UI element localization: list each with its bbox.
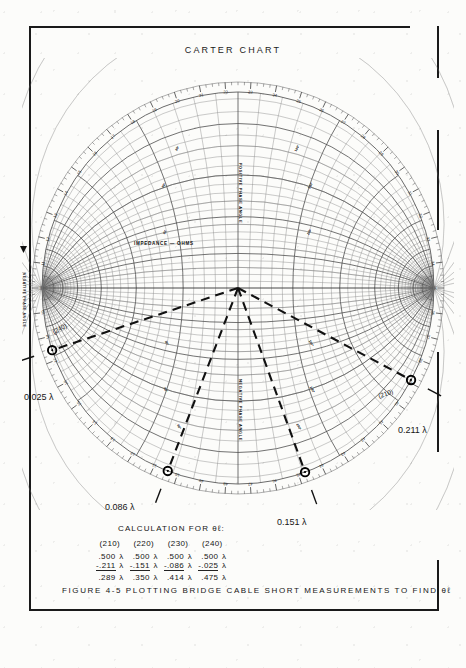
impedance-axis-label: IMPEDANCE — OHMS xyxy=(134,241,194,246)
left-axis-label: NEGATIVE PHASE ANGLE xyxy=(22,273,26,328)
calculation-table: (210)(220)(230)(240) .500 λ.500 λ.500 λ.… xyxy=(96,538,232,582)
svg-text:160°: 160° xyxy=(294,144,301,152)
calculation-block: CALCULATION FOR θℓ: (210)(220)(230)(240)… xyxy=(96,524,232,582)
calc-column-header: (240) xyxy=(198,538,232,551)
svg-text:37: 37 xyxy=(425,334,431,340)
calc-column-header: (220) xyxy=(130,538,164,551)
svg-text:11: 11 xyxy=(151,462,158,469)
svg-text:80°: 80° xyxy=(174,145,180,152)
calc-row: .500 λ.500 λ.500 λ.500 λ xyxy=(96,551,232,561)
calc-column-header: (210) xyxy=(96,538,130,551)
calc-cell: .500 λ xyxy=(130,551,164,561)
chart-title: CARTER CHART xyxy=(0,45,466,55)
calc-cell: .414 λ xyxy=(164,571,198,582)
calculation-title: CALCULATION FOR θℓ: xyxy=(118,524,232,533)
wavelength-annotation-0211: 0.211 λ xyxy=(398,425,427,435)
wavelength-annotation-0086: 0.086 λ xyxy=(105,502,135,512)
page-frame-top xyxy=(29,26,410,28)
calculation-body: .500 λ.500 λ.500 λ.500 λ-.211 λ-.151 λ-.… xyxy=(96,551,232,582)
calc-cell: .500 λ xyxy=(96,551,130,561)
figure-page: CARTER CHART 101112131415161718192021222… xyxy=(0,0,466,668)
calc-cell: .289 λ xyxy=(96,571,130,582)
wavelength-annotation-0151: 0.151 λ xyxy=(277,517,307,527)
svg-text:44: 44 xyxy=(318,463,325,470)
calc-cell: .350 λ xyxy=(130,571,164,582)
calc-cell: .500 λ xyxy=(198,551,232,561)
svg-text:24: 24 xyxy=(272,92,278,98)
svg-text:11: 11 xyxy=(40,260,46,266)
calc-cell: .500 λ xyxy=(164,551,198,561)
svg-text:25: 25 xyxy=(296,98,303,104)
svg-text:160°: 160° xyxy=(307,181,314,189)
calc-column-header: (230) xyxy=(164,538,198,551)
carter-chart: 1011121314151617181920212223242526272829… xyxy=(22,58,454,510)
svg-text:160°: 160° xyxy=(295,423,302,431)
figure-caption: FIGURE 4-5 PLOTTING BRIDGE CABLE SHORT M… xyxy=(62,586,452,595)
positive-phase-angle-label: POSITIVE PHASE ANGLE xyxy=(238,163,243,223)
left-edge-axis-marker: NEGATIVE PHASE ANGLE xyxy=(8,240,34,332)
svg-text:43: 43 xyxy=(339,451,346,458)
svg-text:10: 10 xyxy=(174,472,181,478)
calc-cell: -.025 λ xyxy=(198,561,232,571)
calculation-header-row: (210)(220)(230)(240) xyxy=(96,538,232,551)
calc-row: -.211 λ-.151 λ-.086 λ-.025 λ xyxy=(96,561,232,571)
svg-text:23: 23 xyxy=(248,89,254,94)
calc-cell: -.086 λ xyxy=(164,561,198,571)
page-frame-bottom xyxy=(29,609,439,611)
svg-text:16: 16 xyxy=(62,379,69,386)
calc-row: .289 λ.350 λ.414 λ.475 λ xyxy=(96,571,232,582)
calc-cell: -.211 λ xyxy=(96,561,130,571)
svg-text:80°: 80° xyxy=(176,424,182,431)
svg-text:31: 31 xyxy=(407,190,414,197)
svg-text:48: 48 xyxy=(223,481,229,486)
svg-text:80°: 80° xyxy=(161,182,167,189)
svg-text:26: 26 xyxy=(319,107,326,114)
calc-cell: -.151 λ xyxy=(130,561,164,571)
calc-cell: .475 λ xyxy=(198,571,232,582)
chart-grid xyxy=(22,58,454,510)
svg-text:49: 49 xyxy=(198,478,204,484)
negative-phase-angle-label: NEGATIVE PHASE ANGLE xyxy=(238,379,243,441)
svg-text:36: 36 xyxy=(430,310,436,316)
svg-text:18: 18 xyxy=(129,118,136,125)
svg-text:12: 12 xyxy=(45,236,51,242)
svg-text:19: 19 xyxy=(151,107,158,114)
wavelength-annotation-0025: 0.025 λ xyxy=(24,392,54,402)
